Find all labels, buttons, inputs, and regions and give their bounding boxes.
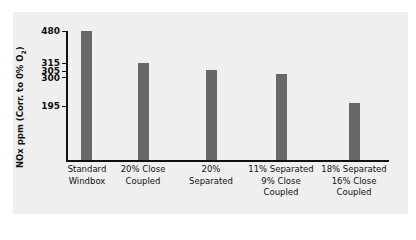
x-label-20-separated: 20%Separated — [171, 164, 251, 187]
y-axis-line — [66, 31, 68, 161]
x-label-11-sep-9-close: 11% Separated9% CloseCoupled — [241, 164, 321, 199]
y-tick-label: 195 — [20, 102, 60, 111]
x-label-18-sep-16-close: 18% Separated16% CloseCoupled — [314, 164, 394, 199]
bar-standard-windbox — [81, 31, 92, 160]
y-tick — [62, 31, 66, 32]
y-tick — [62, 77, 66, 78]
bar-11-sep-9-close — [276, 74, 287, 160]
bar-18-sep-16-close — [349, 103, 360, 160]
y-tick — [62, 106, 66, 107]
bar-20-separated — [206, 70, 217, 160]
y-tick — [62, 71, 66, 72]
x-axis-line — [66, 160, 389, 162]
y-tick — [62, 63, 66, 64]
y-tick-label: 300 — [20, 74, 60, 83]
bar-20-close-coupled — [138, 63, 149, 160]
y-tick-label: 480 — [20, 27, 60, 36]
